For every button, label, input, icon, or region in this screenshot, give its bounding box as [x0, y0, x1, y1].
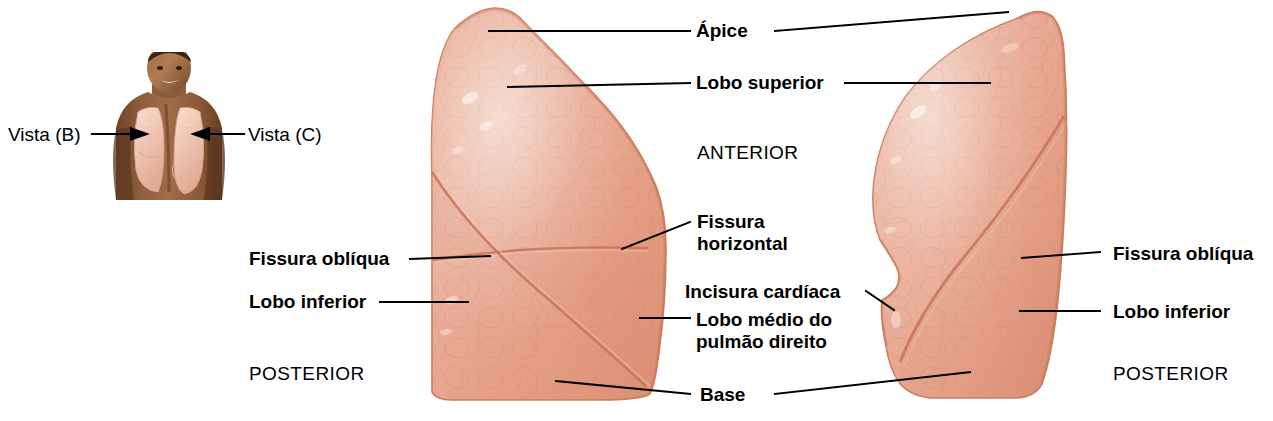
label-apice: Ápice — [696, 20, 748, 42]
lungs-illustration — [0, 0, 1273, 421]
label-vista-b: Vista (B) — [8, 124, 81, 146]
left-lung-graphic — [865, 0, 1080, 421]
figure-canvas: Vista (B) Vista (C) Ápice Lobo superior … — [0, 0, 1273, 421]
label-lobo-inferior-direito: Lobo inferior — [249, 291, 366, 313]
label-posterior-direita: POSTERIOR — [1113, 363, 1229, 385]
label-fissura-obliqua-esquerda: Fissura oblíqua — [1113, 243, 1253, 265]
label-base: Base — [700, 384, 745, 406]
label-fissura-horizontal: Fissura horizontal — [697, 211, 788, 255]
label-lobo-superior: Lobo superior — [696, 72, 824, 94]
label-anterior: ANTERIOR — [697, 142, 798, 164]
label-fissura-obliqua-direita: Fissura oblíqua — [249, 248, 389, 270]
label-lobo-medio: Lobo médio do pulmão direito — [696, 309, 832, 353]
label-incisura-cardiaca: Incisura cardíaca — [685, 281, 840, 303]
label-vista-c: Vista (C) — [248, 124, 322, 146]
label-posterior-esquerda: POSTERIOR — [249, 363, 365, 385]
right-lung-graphic — [425, 0, 675, 421]
label-lobo-inferior-esquerdo: Lobo inferior — [1113, 301, 1230, 323]
